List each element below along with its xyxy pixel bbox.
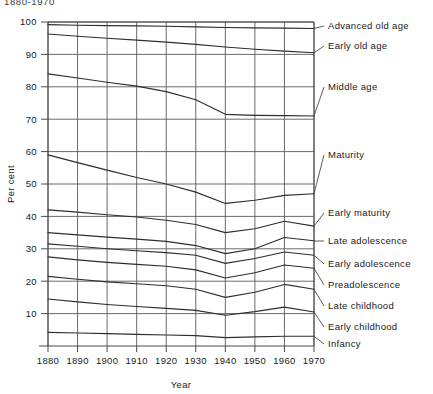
data-series-line	[48, 332, 314, 337]
y-axis-tick-label: 60	[26, 146, 37, 157]
series-label-leader	[314, 255, 324, 264]
data-series-line	[48, 25, 314, 29]
series-label: Early childhood	[328, 321, 397, 332]
x-axis-tick-label: 1900	[96, 355, 118, 366]
data-series-line	[48, 276, 314, 297]
y-axis-tick-label: 70	[26, 114, 37, 125]
y-axis-tick-label: 10	[26, 308, 37, 319]
x-axis-tick-label: 1880	[37, 355, 59, 366]
series-label-leader	[314, 213, 324, 226]
x-axis-tick-label: 1950	[244, 355, 266, 366]
x-axis-tick-label: 1940	[214, 355, 236, 366]
series-label-leader	[314, 46, 324, 53]
x-axis-tick-label: 1910	[125, 355, 147, 366]
x-axis-title: Year	[171, 379, 191, 390]
series-label: Early maturity	[328, 207, 390, 218]
series-label-leader	[314, 268, 324, 285]
series-label: Early adolescence	[328, 258, 411, 269]
data-series-line	[48, 233, 314, 254]
data-series-line	[48, 74, 314, 116]
series-label: Middle age	[328, 81, 377, 92]
chart-figure: 1880-1970 102030405060708090100188018901…	[0, 0, 433, 394]
series-label: Early old age	[328, 40, 387, 51]
y-axis-tick-label: 90	[26, 49, 37, 60]
series-label-leader	[314, 87, 324, 116]
series-label-leader	[314, 26, 324, 29]
series-label: Late childhood	[328, 300, 394, 311]
series-label: Maturity	[328, 149, 364, 160]
y-axis-tick-label: 20	[26, 276, 37, 287]
series-label-leader	[314, 155, 324, 194]
series-label: Late adolescence	[328, 235, 407, 246]
data-series-line	[48, 299, 314, 315]
data-series-line	[48, 155, 314, 204]
y-axis-tick-label: 50	[26, 178, 37, 189]
x-axis-tick-label: 1970	[303, 355, 325, 366]
series-label: Preadolescence	[328, 279, 400, 290]
data-series-line	[48, 257, 314, 278]
series-label: Infancy	[328, 338, 361, 349]
series-label: Advanced old age	[328, 20, 409, 31]
data-series-line	[48, 34, 314, 53]
x-axis-tick-label: 1960	[273, 355, 295, 366]
x-axis-tick-label: 1930	[185, 355, 207, 366]
x-axis-tick-label: 1920	[155, 355, 177, 366]
y-axis-tick-label: 80	[26, 81, 37, 92]
y-axis-tick-label: 40	[26, 211, 37, 222]
y-axis-tick-label: 100	[20, 16, 37, 27]
series-label-leader	[314, 312, 324, 327]
series-label-leader	[314, 336, 324, 344]
y-axis-title: Per cent	[5, 165, 16, 203]
y-axis-tick-label: 30	[26, 243, 37, 254]
x-axis-tick-label: 1890	[66, 355, 88, 366]
data-series-line	[48, 210, 314, 233]
series-label-leader	[314, 289, 324, 306]
line-chart-canvas: 1020304050607080901001880189019001910192…	[0, 0, 433, 394]
